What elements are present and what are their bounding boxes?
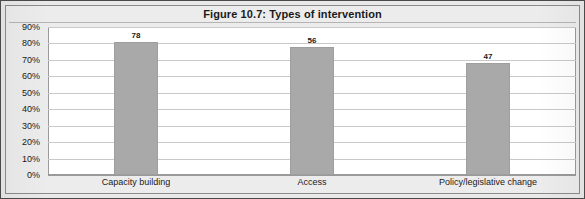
- x-axis-tick-label: Capacity building: [102, 177, 171, 187]
- bar[interactable]: [114, 42, 158, 175]
- figure-container: Figure 10.7: Types of intervention 0%10%…: [0, 0, 585, 199]
- bar[interactable]: [290, 47, 334, 175]
- x-axis-tick-label: Access: [297, 177, 326, 187]
- bar-slot: 47: [466, 27, 510, 175]
- plot-wrap: 785647: [48, 27, 576, 175]
- bar-value-label: 56: [290, 36, 334, 45]
- y-axis-tick-label: 10%: [22, 154, 40, 164]
- bar-value-label: 47: [466, 52, 510, 61]
- y-axis-tick-label: 60%: [22, 71, 40, 81]
- y-axis-tick-label: 0%: [27, 170, 40, 180]
- chart-title: Figure 10.7: Types of intervention: [1, 8, 584, 20]
- y-axis-tick-label: 90%: [22, 22, 40, 32]
- x-axis: Capacity buildingAccessPolicy/legislativ…: [48, 177, 576, 193]
- y-axis-tick-label: 80%: [22, 38, 40, 48]
- y-axis-tick-label: 70%: [22, 55, 40, 65]
- bar-slot: 56: [290, 27, 334, 175]
- bar-slot: 78: [114, 27, 158, 175]
- bar[interactable]: [466, 63, 510, 175]
- y-axis-tick-label: 30%: [22, 121, 40, 131]
- bars-layer: 785647: [48, 27, 576, 175]
- y-axis-tick-label: 40%: [22, 104, 40, 114]
- title-divider: [9, 22, 576, 23]
- x-axis-tick-label: Policy/legislative change: [439, 177, 537, 187]
- y-axis: 0%10%20%30%40%50%60%70%80%90%: [1, 27, 44, 175]
- y-axis-tick-label: 50%: [22, 88, 40, 98]
- bar-value-label: 78: [114, 31, 158, 40]
- y-axis-tick-label: 20%: [22, 137, 40, 147]
